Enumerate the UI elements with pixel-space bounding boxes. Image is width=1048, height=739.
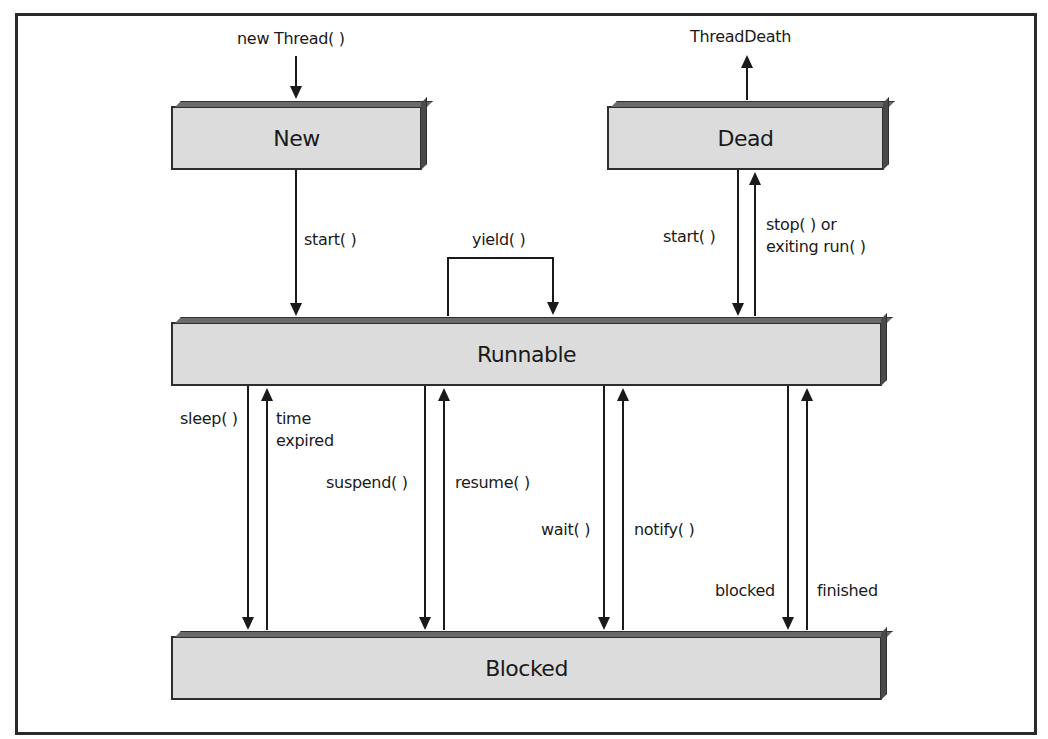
state-dead-label: Dead — [718, 126, 774, 151]
label-wait: wait( ) — [541, 519, 590, 541]
label-sleep: sleep( ) — [180, 408, 238, 430]
label-blocked: blocked — [715, 580, 775, 602]
label-stop: stop( ) or exiting run( ) — [766, 214, 866, 258]
state-blocked: Blocked — [171, 636, 882, 700]
label-yield: yield( ) — [472, 229, 526, 251]
label-start-new: start( ) — [304, 229, 356, 251]
label-notify: notify( ) — [634, 519, 694, 541]
label-new-thread: new Thread( ) — [237, 28, 345, 50]
state-blocked-label: Blocked — [485, 656, 568, 681]
state-runnable-label: Runnable — [477, 342, 576, 367]
label-thread-death: ThreadDeath — [690, 26, 791, 48]
state-new: New — [171, 106, 422, 170]
state-runnable: Runnable — [171, 322, 882, 386]
label-start-dead: start( ) — [663, 226, 715, 248]
state-new-label: New — [273, 126, 320, 151]
label-finished: finished — [817, 580, 878, 602]
label-resume: resume( ) — [455, 472, 530, 494]
arrow-yield — [448, 258, 553, 316]
state-dead: Dead — [607, 106, 884, 170]
label-suspend: suspend( ) — [326, 472, 408, 494]
label-time-expired: time expired — [276, 408, 334, 452]
